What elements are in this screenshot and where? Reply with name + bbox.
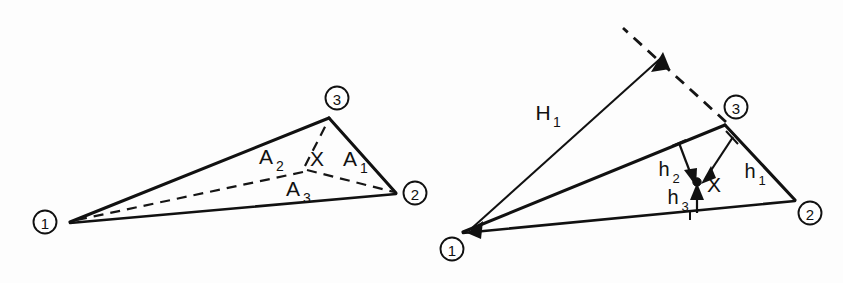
right-height-label-h2-sub: 2	[672, 171, 679, 186]
left-edge-3-2	[329, 118, 396, 193]
right-interior-point-dot	[693, 178, 701, 186]
left-area-label-a3-base: A	[286, 177, 300, 200]
right-edge-3-2	[725, 125, 795, 200]
right-total-height-label-sub: 1	[553, 114, 561, 130]
left-edge-1-2	[70, 194, 396, 223]
right-vertex-label-3: 3	[732, 100, 740, 117]
left-edge-1-3	[70, 118, 329, 222]
right-interior-point-label: X	[707, 173, 721, 196]
right-height-label-h3-sub: 3	[681, 199, 688, 214]
right-edge-1-2	[463, 201, 795, 233]
left-area-label-a2-base: A	[259, 145, 273, 168]
left-panel-group: 1 2 3 A 1 A 2 A 3 X	[34, 87, 427, 234]
left-vertex-label-2: 2	[411, 186, 419, 203]
right-height-label-h1-base: h	[744, 160, 755, 182]
left-cevian-x-to-2	[307, 170, 394, 192]
left-area-label-a1-base: A	[343, 147, 357, 170]
right-height-label-h2-base: h	[658, 158, 669, 180]
right-vertex-label-1: 1	[448, 242, 456, 259]
right-vertex-label-2: 2	[806, 206, 814, 223]
left-area-label-a3-sub: 3	[303, 190, 311, 206]
figure-root: 1 2 3 A 1 A 2 A 3 X	[0, 0, 843, 283]
right-dashed-extension-ray	[623, 28, 726, 122]
right-height-label-h1-sub: 1	[758, 173, 765, 188]
left-area-label-a2-sub: 2	[276, 158, 284, 174]
left-vertex-label-3: 3	[333, 91, 341, 108]
diagram-canvas: 1 2 3 A 1 A 2 A 3 X	[0, 0, 843, 283]
left-vertex-label-1: 1	[41, 215, 49, 232]
right-height-label-h3-base: h	[667, 186, 678, 208]
right-total-height-label-base: H	[535, 101, 550, 124]
right-total-height-arrow-line	[472, 58, 661, 228]
left-area-label-a1-sub: 1	[360, 160, 368, 176]
left-interior-point-label: X	[310, 147, 324, 170]
right-panel-group: 1 2 3 h 1 h 2 h 3 X H 1	[441, 28, 822, 261]
